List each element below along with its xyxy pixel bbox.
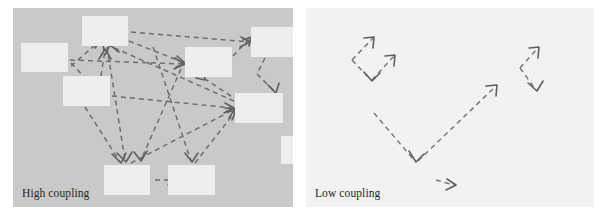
node-box [168, 165, 215, 195]
node-box [82, 16, 128, 46]
node-box [281, 136, 293, 164]
node-box [63, 76, 110, 106]
panel-low-coupling: Low coupling [306, 8, 594, 207]
node-box [21, 43, 68, 72]
panel-caption-low-coupling: Low coupling [315, 187, 380, 200]
panel-high-coupling: High coupling [13, 8, 293, 207]
panel-caption-high-coupling: High coupling [22, 187, 89, 200]
low-coupling-arrow-layer [306, 8, 594, 207]
node-box [185, 47, 232, 77]
figure-root: High coupling [0, 0, 605, 217]
node-box [251, 27, 293, 57]
node-box [104, 165, 150, 195]
node-box [235, 93, 283, 123]
